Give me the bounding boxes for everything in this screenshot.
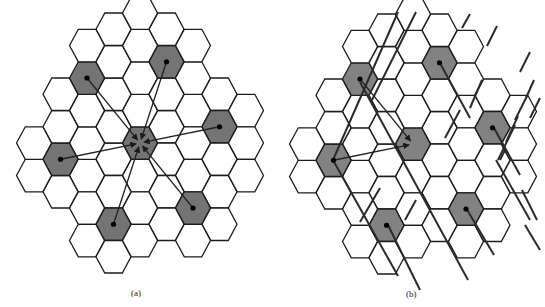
base-station-dot xyxy=(111,222,116,227)
base-station-dot xyxy=(217,124,222,129)
base-station-dot xyxy=(164,59,169,64)
caption-b: (b) xyxy=(406,289,417,299)
obstruction-line xyxy=(525,225,540,250)
panel-b-obstructed-interference xyxy=(290,0,541,290)
obstruction-line xyxy=(487,26,497,46)
obstruction-line xyxy=(462,14,470,28)
base-station-dot xyxy=(331,158,336,163)
base-station-dot xyxy=(384,223,389,228)
base-station-dot xyxy=(190,205,195,210)
base-station-dot xyxy=(490,125,495,130)
base-station-dot xyxy=(463,206,468,211)
obstruction-line xyxy=(526,80,534,98)
obstruction-line xyxy=(522,190,537,220)
base-station-dot xyxy=(58,157,63,162)
caption-a: (a) xyxy=(131,288,141,298)
panel-a-direct-interference xyxy=(17,0,264,273)
obstruction-line xyxy=(520,52,530,72)
figure: (a) (b) xyxy=(0,0,545,307)
base-station-dot xyxy=(437,60,442,65)
base-station-dot xyxy=(357,76,362,81)
base-station-dot xyxy=(84,75,89,80)
hex-cell-diagram xyxy=(0,0,545,307)
